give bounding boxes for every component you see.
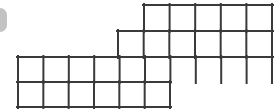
grid-cell xyxy=(69,57,94,82)
grid-cell xyxy=(247,57,272,82)
grid-cell xyxy=(195,31,221,57)
grid-cell xyxy=(145,57,170,82)
grid-cell xyxy=(144,31,170,57)
grid-cell xyxy=(246,5,272,31)
grid-cell xyxy=(246,31,272,57)
grid-cell xyxy=(221,5,247,31)
figure-root xyxy=(0,0,277,112)
grid-cell xyxy=(69,82,94,107)
grid-cell xyxy=(120,57,145,82)
grid-cell xyxy=(43,57,68,82)
grid-cell xyxy=(18,82,43,107)
grid-cell xyxy=(119,82,144,107)
grid-cell xyxy=(118,31,144,57)
grid-cell xyxy=(94,57,119,82)
grid-cell xyxy=(170,57,195,82)
grid-cell xyxy=(221,57,246,82)
grid-cell xyxy=(196,57,221,82)
grid-cell xyxy=(18,57,43,82)
grid-cell xyxy=(170,5,196,31)
grid-cell xyxy=(144,5,170,31)
grid-cell xyxy=(221,31,247,57)
grid-cell xyxy=(145,82,170,107)
grid-cell xyxy=(94,82,119,107)
grid-cell xyxy=(43,82,68,107)
staircase-grid xyxy=(0,0,277,112)
grid-cell xyxy=(195,5,221,31)
grid-cell xyxy=(169,31,195,57)
